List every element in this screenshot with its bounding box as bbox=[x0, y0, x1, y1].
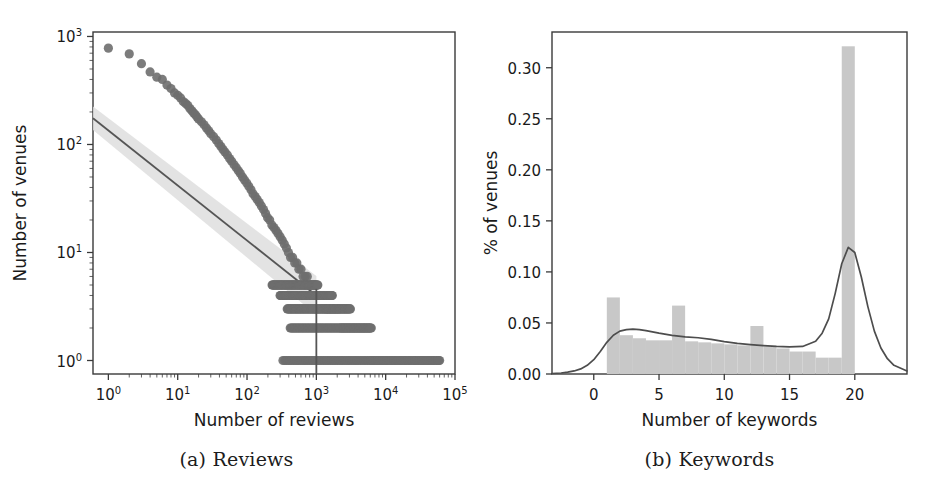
x-tick-label: 15 bbox=[780, 386, 799, 404]
plot-frame bbox=[93, 32, 455, 374]
y-tick-label: 0.05 bbox=[508, 315, 541, 333]
y-tick-label: 0.25 bbox=[508, 111, 541, 129]
histogram-bar bbox=[816, 358, 829, 374]
scatter-point bbox=[367, 323, 376, 332]
y-tick-label: 0.15 bbox=[508, 213, 541, 231]
scatter-point bbox=[328, 291, 337, 300]
y-axis-label: % of venues bbox=[481, 150, 501, 255]
scatter-point bbox=[125, 49, 134, 58]
keywords-histogram-plot: 051015200.000.050.100.150.200.250.30Numb… bbox=[473, 0, 946, 440]
y-tick-label: 100 bbox=[57, 352, 82, 371]
y-tick-label: 0.00 bbox=[508, 366, 541, 384]
scatter-point bbox=[137, 59, 146, 68]
x-tick-label: 101 bbox=[165, 385, 190, 404]
histogram-bar bbox=[685, 341, 698, 374]
x-tick-label: 104 bbox=[373, 385, 398, 404]
histogram-bar bbox=[737, 345, 750, 374]
histogram-bar bbox=[672, 306, 685, 374]
histogram-bar bbox=[633, 338, 646, 374]
scatter-point bbox=[346, 304, 355, 313]
y-tick-label: 0.20 bbox=[508, 162, 541, 180]
x-tick-label: 0 bbox=[589, 386, 599, 404]
histogram-bar bbox=[803, 352, 816, 374]
histogram-bar bbox=[698, 342, 711, 374]
x-axis-label: Number of reviews bbox=[194, 410, 355, 430]
scatter-point bbox=[313, 280, 322, 289]
x-tick-label: 100 bbox=[96, 385, 121, 404]
histogram-bar bbox=[776, 348, 789, 374]
figure-container: 100101102103104105100101102103Number of … bbox=[0, 0, 946, 500]
panel-reviews: 100101102103104105100101102103Number of … bbox=[0, 0, 473, 500]
histogram-bar bbox=[659, 340, 672, 374]
histogram-bar bbox=[711, 343, 724, 374]
x-tick-label: 103 bbox=[304, 385, 329, 404]
histogram-bar bbox=[646, 340, 659, 374]
x-axis-label: Number of keywords bbox=[642, 410, 818, 430]
y-tick-label: 102 bbox=[57, 135, 82, 154]
x-tick-label: 10 bbox=[715, 386, 734, 404]
histogram-bar bbox=[790, 352, 803, 374]
scatter-point bbox=[104, 44, 113, 53]
histogram-bar bbox=[842, 46, 855, 374]
y-tick-label: 0.30 bbox=[508, 60, 541, 78]
y-tick-label: 101 bbox=[57, 243, 82, 262]
y-axis-label: Number of venues bbox=[10, 124, 30, 281]
y-tick-label: 0.10 bbox=[508, 264, 541, 282]
reviews-scatter-plot: 100101102103104105100101102103Number of … bbox=[0, 0, 473, 440]
histogram-bar bbox=[620, 335, 633, 374]
x-tick-label: 102 bbox=[234, 385, 259, 404]
x-tick-label: 105 bbox=[442, 385, 467, 404]
x-tick-label: 20 bbox=[845, 386, 864, 404]
histogram-bar bbox=[763, 346, 776, 374]
panel-keywords: 051015200.000.050.100.150.200.250.30Numb… bbox=[473, 0, 946, 500]
caption-reviews: (a) Reviews bbox=[0, 448, 473, 470]
x-tick-label: 5 bbox=[654, 386, 664, 404]
y-tick-label: 103 bbox=[57, 27, 82, 46]
scatter-point bbox=[303, 272, 312, 281]
scatter-point bbox=[435, 356, 444, 365]
histogram-bar bbox=[750, 326, 763, 374]
caption-keywords: (b) Keywords bbox=[473, 448, 946, 470]
histogram-bar bbox=[724, 344, 737, 374]
histogram-bar bbox=[829, 358, 842, 374]
